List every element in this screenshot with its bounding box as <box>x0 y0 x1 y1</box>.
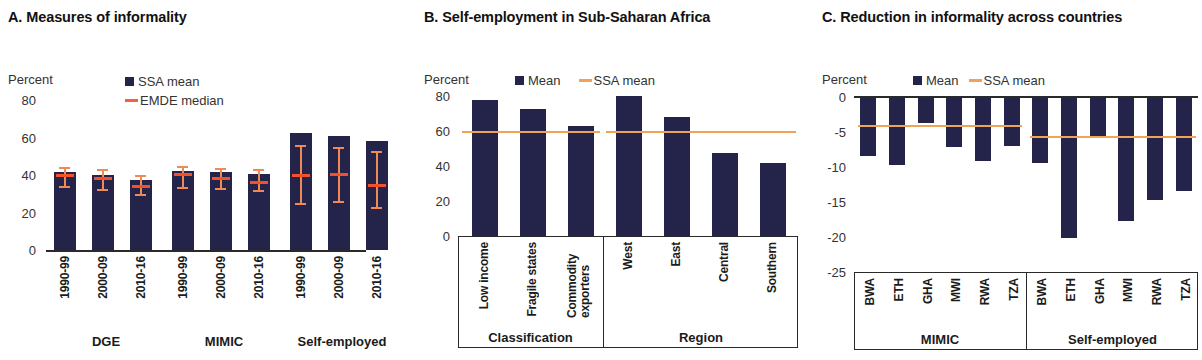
grouplabel-mimic: MIMIC <box>854 332 1026 347</box>
errorbar-median <box>368 184 386 187</box>
catlabel-selfemployed-mwi: MWI <box>1121 278 1135 302</box>
bar-commodity-exporters <box>568 126 594 236</box>
panel-b: B. Self-employment in Sub-Saharan Africa… <box>410 0 810 360</box>
ssa-mean-line-mimic <box>858 125 1022 127</box>
ytick-20: 20 <box>2 205 36 220</box>
errorbar-cap-low <box>177 187 188 189</box>
ssa-mean-line-classification <box>462 131 600 133</box>
ytick-20: 20 <box>416 194 450 209</box>
grouplabel-region: Region <box>604 330 798 345</box>
errorbar-median <box>330 173 348 176</box>
catlabel-selfemployed-2000-09: 2000-09 <box>332 256 346 299</box>
catlabel-dge-1990-99: 1990-99 <box>58 256 72 299</box>
catlabel-selfemployed-2010-16: 2010-16 <box>370 256 384 299</box>
catlabel-mimic-bwa: BWA <box>863 278 877 305</box>
errorbar-cap-low <box>333 201 344 203</box>
catlabel-mimic-2000-09: 2000-09 <box>214 256 228 299</box>
ssa-mean-line-region <box>606 131 796 133</box>
errorbar-cap-low <box>215 188 226 190</box>
errorbar-cap-low <box>97 189 108 191</box>
ytick-40: 40 <box>416 159 450 174</box>
errorbar-stem <box>376 151 378 207</box>
errorbar-cap-high <box>135 175 146 177</box>
bar-selfemployed-tza <box>1176 98 1192 191</box>
errorbar-cap-high <box>97 169 108 171</box>
panel-c-plot: 0 -5 -10 -15 -20 -25 <box>810 0 1202 360</box>
errorbar-median <box>250 181 268 184</box>
bar-mimic-eth <box>889 98 905 165</box>
grouplabel-classification: Classification <box>458 330 603 345</box>
catlabel-central: Central <box>717 242 731 282</box>
bar-selfemployed-mwi <box>1118 98 1134 221</box>
errorbar-median <box>132 185 150 188</box>
errorbar-median <box>94 177 112 180</box>
catlabel-southern: Southern <box>765 242 779 293</box>
bar-mimic-rwa <box>975 98 991 161</box>
catlabel-selfemployed-gha: GHA <box>1093 278 1107 304</box>
ytick-40: 40 <box>2 168 36 183</box>
grouplabel-dge: DGE <box>46 334 166 349</box>
errorbar-cap-high <box>215 168 226 170</box>
errorbar-cap-low <box>253 190 264 192</box>
ytick-m5: -5 <box>814 125 846 140</box>
bar-selfemployed-gha <box>1090 98 1106 137</box>
panel-a-plot: 80 60 40 20 0 <box>0 0 410 360</box>
catlabel-fragile-states: Fragile states <box>525 242 539 317</box>
errorbar-median <box>56 174 74 177</box>
errorbar-cap-high <box>371 151 382 153</box>
catlabel-east: East <box>669 242 683 267</box>
ytick-m15: -15 <box>814 195 846 210</box>
panel-b-plot: 80 60 40 20 0 Low income Fragile states … <box>410 0 810 360</box>
catlabel-mimic-tza: TZA <box>1007 278 1021 301</box>
bar-west <box>616 96 642 236</box>
catlabel-commodity-exporters: Commodity exporters <box>566 242 591 318</box>
catlabel-dge-2000-09: 2000-09 <box>96 256 110 299</box>
errorbar-stem <box>258 169 260 190</box>
ytick-80: 80 <box>416 89 450 104</box>
ytick-m25: -25 <box>814 265 846 280</box>
bar-east <box>664 117 690 236</box>
bar-mimic-gha <box>918 98 934 123</box>
panel-c: C. Reduction in informality across count… <box>810 0 1202 360</box>
ytick-0: 0 <box>416 229 450 244</box>
ytick-60: 60 <box>416 124 450 139</box>
catlabel-selfemployed-tza: TZA <box>1179 278 1193 301</box>
catlabel-mimic-2010-16: 2010-16 <box>252 256 266 299</box>
errorbar-cap-low <box>59 186 70 188</box>
informality-figure: A. Measures of informality Percent SSA m… <box>0 0 1202 360</box>
errorbar-median <box>212 177 230 180</box>
ytick-m10: -10 <box>814 160 846 175</box>
bar-low-income <box>472 100 498 237</box>
ytick-0: 0 <box>2 243 36 258</box>
bar-fragile-states <box>520 109 546 236</box>
catlabel-mimic-mwi: MWI <box>949 278 963 302</box>
catlabel-mimic-eth: ETH <box>892 278 906 301</box>
errorbar-cap-low <box>135 194 146 196</box>
errorbar-cap-high <box>59 167 70 169</box>
catlabel-mimic-gha: GHA <box>921 278 935 304</box>
ytick-0: 0 <box>814 90 846 105</box>
bar-central <box>712 153 738 236</box>
ytick-m20: -20 <box>814 230 846 245</box>
bar-mimic-bwa <box>860 98 876 156</box>
bar-selfemployed-eth <box>1061 98 1077 238</box>
catlabel-mimic-1990-99: 1990-99 <box>176 256 190 299</box>
errorbar-cap-high <box>177 166 188 168</box>
catlabel-selfemployed-eth: ETH <box>1064 278 1078 301</box>
catlabel-selfemployed-rwa: RWA <box>1150 278 1164 305</box>
panel-a: A. Measures of informality Percent SSA m… <box>0 0 410 360</box>
x-axis-line <box>46 250 366 252</box>
ssa-mean-line-selfemployed <box>1030 136 1196 138</box>
catlabel-mimic-rwa: RWA <box>978 278 992 305</box>
errorbar-stem <box>182 166 184 188</box>
catlabel-selfemployed-bwa: BWA <box>1035 278 1049 305</box>
catlabel-selfemployed-1990-99: 1990-99 <box>294 256 308 299</box>
grouplabel-selfemployed: Self-employed <box>1027 332 1198 347</box>
bar-selfemployed-rwa <box>1147 98 1163 200</box>
errorbar-cap-low <box>295 203 306 205</box>
errorbar-cap-high <box>295 145 306 147</box>
catlabel-west: West <box>621 242 635 270</box>
bar-mimic-mwi <box>946 98 962 147</box>
errorbar-median <box>292 174 310 177</box>
ytick-80: 80 <box>2 93 36 108</box>
